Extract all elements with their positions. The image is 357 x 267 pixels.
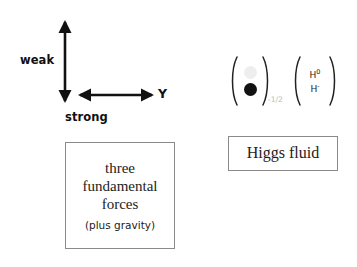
right-paren-icon — [328, 55, 339, 107]
left-paren-icon — [228, 55, 239, 107]
hypercharge-subscript: -1/2 — [268, 95, 283, 104]
h-minus-superscript: - — [317, 82, 319, 90]
circle-doublet-body — [239, 56, 261, 106]
diagram-canvas: weak strong Y -1/2 — [0, 0, 357, 267]
circle-doublet: -1/2 — [228, 55, 272, 107]
plus-gravity-note: (plus gravity) — [85, 219, 155, 231]
forces-line-1: three — [105, 160, 135, 178]
higgs-fluid-label: Higgs fluid — [247, 144, 319, 163]
axis-diagram: weak strong Y — [0, 0, 190, 135]
weak-axis-label: weak — [20, 53, 54, 67]
field-doublet-row: H0 H- — [291, 55, 339, 107]
h-zero-superscript: 0 — [316, 68, 320, 76]
higgs-fluid-box: Higgs fluid — [228, 136, 338, 171]
h-minus-field: H- — [310, 83, 319, 94]
forces-line-3: forces — [102, 196, 139, 214]
y-axis-label: Y — [158, 86, 167, 101]
left-paren-icon — [291, 55, 302, 107]
forces-lines: three fundamental forces — [83, 160, 158, 213]
open-circle-icon — [244, 66, 257, 79]
higgs-field-doublet: H0 H- — [291, 55, 339, 107]
circle-doublet-row — [228, 55, 272, 107]
doublet-group: -1/2 H0 H- — [228, 55, 348, 117]
forces-line-2: fundamental — [83, 178, 158, 196]
strong-axis-label: strong — [65, 110, 108, 124]
filled-circle-icon — [244, 83, 257, 96]
h-zero-field: H0 — [310, 69, 321, 80]
field-doublet-body: H0 H- — [302, 56, 328, 106]
three-fundamental-forces-box: three fundamental forces (plus gravity) — [65, 142, 175, 249]
